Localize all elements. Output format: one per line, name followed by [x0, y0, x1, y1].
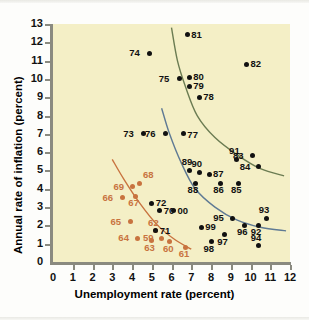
x-tick: [251, 265, 253, 270]
x-tick-label: 7: [181, 271, 201, 283]
data-point-label: 94: [247, 232, 261, 243]
y-tick: [45, 134, 50, 136]
x-tick-label: 1: [63, 271, 83, 283]
x-tick-label: 2: [83, 271, 103, 283]
x-tick-label: 9: [221, 271, 241, 283]
data-point-label: 60: [160, 243, 174, 254]
data-point-label: 74: [126, 47, 140, 58]
x-tick: [93, 265, 95, 270]
data-point-label: 81: [191, 29, 202, 40]
data-point-label: 67: [125, 197, 139, 208]
data-point-label: 65: [107, 216, 121, 227]
x-tick-label: 6: [162, 271, 182, 283]
y-tick: [45, 225, 50, 227]
data-point: [187, 75, 192, 80]
data-point: [264, 216, 269, 221]
x-tick: [290, 265, 292, 270]
y-tick-label: 12: [19, 35, 43, 47]
data-point-label: 87: [213, 168, 224, 179]
x-tick-label: 4: [122, 271, 142, 283]
y-tick: [45, 97, 50, 99]
data-point: [199, 225, 204, 230]
y-tick: [45, 116, 50, 118]
y-tick: [45, 79, 50, 81]
data-point-label: 61: [175, 248, 189, 259]
data-point-label: 99: [205, 221, 216, 232]
data-point-label: 93: [255, 204, 269, 215]
phillips-curve-figure: 5960616263646566676869707172737475767778…: [0, 0, 309, 320]
data-point-label: 78: [203, 91, 214, 102]
data-point-label: 73: [120, 128, 134, 139]
data-point: [244, 62, 249, 67]
data-point: [128, 219, 133, 224]
data-point-label: 75: [155, 73, 169, 84]
x-tick: [211, 265, 213, 270]
data-point: [187, 84, 192, 89]
x-tick-label: 5: [142, 271, 162, 283]
data-point: [230, 216, 235, 221]
data-point: [197, 95, 202, 100]
data-point-label: 82: [251, 58, 262, 69]
y-tick-label: 13: [19, 17, 43, 29]
x-tick: [172, 265, 174, 270]
y-tick: [45, 24, 50, 26]
x-tick-label: 11: [260, 271, 280, 283]
y-tick: [45, 244, 50, 246]
data-point-label: 72: [156, 197, 167, 208]
y-tick: [45, 61, 50, 63]
x-tick-label: 10: [241, 271, 261, 283]
data-point-label: 97: [214, 236, 228, 247]
y-tick: [45, 189, 50, 191]
x-tick-label: 3: [102, 271, 122, 283]
y-tick: [45, 170, 50, 172]
data-point-label: 98: [200, 243, 214, 254]
x-tick: [112, 265, 114, 270]
data-point-label: 84: [236, 161, 250, 172]
data-point-label: 66: [99, 192, 113, 203]
data-point: [159, 236, 164, 241]
x-tick: [132, 265, 134, 270]
data-point: [197, 170, 202, 175]
data-point-label: 85: [228, 184, 242, 195]
y-tick: [45, 42, 50, 44]
data-point-label: 64: [115, 232, 129, 243]
x-tick-label: 12: [280, 271, 300, 283]
y-tick-label: 0: [19, 255, 43, 267]
data-point-label: 96: [234, 226, 248, 237]
data-point-label: 80: [193, 71, 204, 82]
x-tick: [270, 265, 272, 270]
x-tick-label: 0: [43, 271, 63, 283]
data-point-label: 86: [210, 184, 224, 195]
y-axis-line: [50, 24, 53, 265]
y-tick: [45, 152, 50, 154]
data-point: [207, 172, 212, 177]
x-axis-title: Unemployment rate (percent): [0, 288, 309, 300]
y-axis-title: Annual rate of inflation (percent): [12, 76, 24, 254]
data-point-label: 76: [142, 128, 156, 139]
data-point-label: 71: [160, 225, 171, 236]
data-point-label: 69: [110, 181, 124, 192]
y-tick: [45, 207, 50, 209]
data-point: [256, 243, 261, 248]
x-tick: [191, 265, 193, 270]
x-tick: [73, 265, 75, 270]
data-point-label: 90: [188, 158, 202, 169]
y-tick-label: 11: [19, 54, 43, 66]
x-tick-label: 8: [201, 271, 221, 283]
x-tick: [152, 265, 154, 270]
data-point-label: 62: [145, 217, 159, 228]
x-tick: [231, 265, 233, 270]
data-point-label: 00: [177, 205, 188, 216]
data-point-label: 88: [184, 184, 198, 195]
data-point-label: 91: [226, 145, 240, 156]
data-point-label: 68: [143, 169, 154, 180]
data-point-label: 77: [187, 129, 198, 140]
data-point-label: 63: [141, 242, 155, 253]
